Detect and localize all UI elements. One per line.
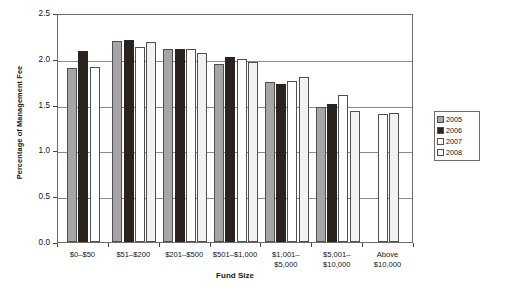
x-axis-tick-mark — [311, 243, 312, 247]
y-axis-tick-label: 2.0 — [12, 55, 50, 64]
bar-2006 — [175, 49, 185, 242]
legend-label: 2008 — [446, 149, 462, 157]
y-axis-tick-label: 2.5 — [12, 9, 50, 18]
bar-2007 — [378, 114, 388, 242]
bar-group — [160, 15, 211, 242]
bar-group — [312, 15, 363, 242]
x-axis-tick-mark — [210, 243, 211, 247]
x-axis-tick-mark — [108, 243, 109, 247]
y-axis-tick-mark — [53, 14, 57, 15]
legend-item: 2007 — [437, 136, 477, 147]
x-axis-title: Fund Size — [57, 271, 413, 280]
bar-2006 — [276, 84, 286, 242]
bar-2007 — [90, 67, 100, 242]
bar-2008 — [197, 53, 207, 242]
bar-2006 — [225, 57, 235, 242]
y-axis-tick-label: 1.0 — [12, 146, 50, 155]
y-axis-tick-label: 0.0 — [12, 238, 50, 247]
legend-swatch-icon — [437, 116, 444, 123]
bar-2005 — [316, 107, 326, 242]
bar-2005 — [214, 64, 224, 242]
x-axis-tick-mark — [260, 243, 261, 247]
bar-groups — [58, 15, 412, 242]
bar-2007 — [186, 49, 196, 242]
plot-area — [57, 14, 413, 243]
bar-2007 — [237, 59, 247, 242]
chart-figure: Percentage of Management Fee 0.00.51.01.… — [0, 0, 513, 290]
y-axis-title: Percentage of Management Fee — [15, 48, 24, 198]
y-axis-tick-mark — [53, 106, 57, 107]
bar-group — [261, 15, 312, 242]
bar-2006 — [327, 104, 337, 242]
bar-group — [363, 15, 414, 242]
x-axis-tick-mark — [57, 243, 58, 247]
bar-2008 — [146, 42, 156, 242]
y-axis-tick-mark — [53, 197, 57, 198]
legend-swatch-icon — [437, 149, 444, 156]
x-axis-tick-mark — [362, 243, 363, 247]
y-axis-tick-mark — [53, 60, 57, 61]
bar-2008 — [248, 62, 258, 242]
bar-2005 — [163, 49, 173, 242]
x-axis-label-line: Above — [345, 250, 431, 260]
x-axis-category-label: Above$10,000 — [345, 250, 431, 269]
legend-swatch-icon — [437, 138, 444, 145]
bar-group — [109, 15, 160, 242]
legend-label: 2005 — [446, 116, 462, 124]
bar-2007 — [135, 47, 145, 242]
bar-group — [58, 15, 109, 242]
bar-2006 — [124, 40, 134, 242]
legend-item: 2008 — [437, 147, 477, 158]
x-axis-tick-mark — [159, 243, 160, 247]
legend-item: 2006 — [437, 125, 477, 136]
bar-2006 — [78, 51, 88, 242]
x-axis-label-line: $10,000 — [345, 260, 431, 270]
legend-label: 2006 — [446, 127, 462, 135]
bar-2008 — [299, 77, 309, 242]
legend-item: 2005 — [437, 114, 477, 125]
bar-2007 — [338, 95, 348, 242]
bar-group — [211, 15, 262, 242]
chart-legend: 2005200620072008 — [434, 111, 480, 161]
bar-2008 — [350, 111, 360, 242]
bar-2007 — [287, 81, 297, 242]
y-axis-tick-mark — [53, 151, 57, 152]
bar-2005 — [67, 68, 77, 242]
x-axis-tick-mark — [413, 243, 414, 247]
legend-label: 2007 — [446, 138, 462, 146]
y-axis-tick-label: 0.5 — [12, 192, 50, 201]
y-axis-tick-label: 1.5 — [12, 101, 50, 110]
bar-2005 — [265, 82, 275, 242]
bar-2008 — [389, 113, 399, 242]
bar-2005 — [112, 41, 122, 242]
legend-swatch-icon — [437, 127, 444, 134]
